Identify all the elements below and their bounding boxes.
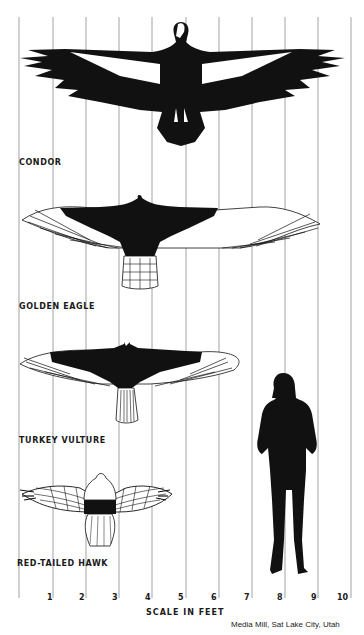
scale-tick-7: 7 bbox=[244, 593, 250, 602]
scale-tick-6: 6 bbox=[211, 593, 217, 602]
golden-eagle-label: GOLDEN EAGLE bbox=[19, 302, 95, 311]
scale-tick-8: 8 bbox=[277, 593, 283, 602]
scale-tick-3: 3 bbox=[112, 593, 118, 602]
scale-tick-10: 10 bbox=[337, 593, 348, 602]
condor-label: CONDOR bbox=[19, 158, 62, 167]
wingspan-diagram: CONDOR GOLDEN EAGLE TURKEY VULTURE RED-T… bbox=[0, 0, 364, 635]
scale-tick-9: 9 bbox=[311, 593, 317, 602]
condor-silhouette bbox=[20, 22, 345, 146]
red-tailed-hawk-label: RED-TAILED HAWK bbox=[17, 559, 108, 568]
credit-line: Media Mill, Sat Lake City, Utah bbox=[231, 620, 340, 629]
scale-title: SCALE IN FEET bbox=[146, 608, 224, 617]
turkey-vulture-label: TURKEY VULTURE bbox=[19, 436, 106, 445]
diagram-canvas bbox=[0, 0, 364, 635]
scale-tick-1: 1 bbox=[47, 593, 53, 602]
scale-tick-4: 4 bbox=[145, 593, 151, 602]
scale-tick-5: 5 bbox=[178, 593, 184, 602]
red-tailed-hawk-silhouette bbox=[20, 474, 172, 547]
golden-eagle-silhouette bbox=[22, 195, 320, 289]
woman-silhouette bbox=[257, 373, 317, 574]
scale-tick-2: 2 bbox=[79, 593, 85, 602]
